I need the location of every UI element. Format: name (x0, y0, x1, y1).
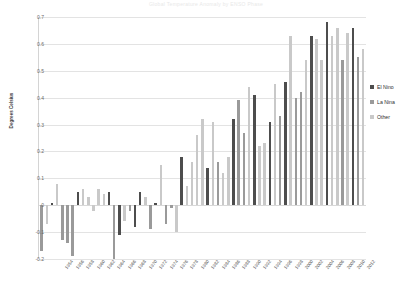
x-tick-label: 1958 (85, 259, 95, 270)
bar (77, 192, 79, 205)
bar (300, 92, 302, 205)
bar (103, 194, 105, 205)
bar (51, 203, 53, 206)
legend-swatch-icon (370, 85, 374, 89)
bar (113, 205, 115, 259)
y-tick-label: -0.1 (16, 229, 44, 235)
x-tick-label: 1974 (168, 259, 178, 270)
x-tick-label: 1982 (210, 259, 220, 270)
bar (341, 60, 343, 205)
x-tick-label: 1966 (127, 259, 137, 270)
bar (253, 95, 255, 205)
x-tick-label: 2002 (314, 259, 324, 270)
bar (180, 157, 182, 205)
bar (154, 203, 156, 206)
bar (357, 57, 359, 205)
x-tick-label: 2000 (304, 259, 314, 270)
bar (40, 205, 42, 251)
x-tick-label: 2006 (335, 259, 345, 270)
x-tick-label: 1956 (75, 259, 85, 270)
bar (170, 205, 172, 208)
x-tick-label: 2004 (325, 259, 335, 270)
bar (263, 143, 265, 205)
legend-item[interactable]: Other (370, 113, 412, 120)
y-tick-label: 0 (16, 202, 44, 208)
bar (201, 119, 203, 205)
bar (66, 205, 68, 243)
bar (186, 186, 188, 205)
x-tick-label: 1990 (252, 259, 262, 270)
bar (46, 205, 48, 224)
bar (279, 116, 281, 205)
x-tick-label: 1994 (273, 259, 283, 270)
x-tick-label: 1970 (148, 259, 158, 270)
bar (165, 205, 167, 224)
bar (336, 28, 338, 205)
bar (206, 168, 208, 206)
x-tick-label: 1976 (179, 259, 189, 270)
chart-legend: El NinoLa NinaOther (370, 83, 412, 128)
x-tick-label: 1972 (158, 259, 168, 270)
bar (97, 189, 99, 205)
bar (92, 205, 94, 210)
bar (175, 205, 177, 232)
bar (362, 49, 364, 205)
bar (123, 205, 125, 221)
bar (289, 36, 291, 205)
x-tick-label: 1964 (116, 259, 126, 270)
bar (191, 162, 193, 205)
x-tick-label: 1980 (200, 259, 210, 270)
y-axis-title: Degrees Celsius (9, 76, 14, 146)
x-tick-label: 1984 (221, 259, 231, 270)
legend-swatch-icon (370, 100, 374, 104)
bar (315, 39, 317, 206)
bar (149, 205, 151, 229)
bar (237, 100, 239, 205)
y-tick-label: 0.7 (16, 14, 44, 20)
x-tick-label: 1992 (262, 259, 272, 270)
x-tick-label: 1968 (137, 259, 147, 270)
x-tick-label: 1954 (64, 259, 74, 270)
bar (227, 157, 229, 205)
y-tick-label: 0.2 (16, 148, 44, 154)
x-axis-ticks: 1954195619581960196219641966196819701972… (38, 259, 366, 283)
bar (269, 122, 271, 205)
bar (352, 28, 354, 205)
chart-container: Global Temperature Anomaly by ENSO Phase… (0, 0, 412, 283)
chart-title: Global Temperature Anomaly by ENSO Phase (0, 1, 412, 7)
x-tick-label: 1962 (106, 259, 116, 270)
bar (248, 87, 250, 205)
bar (196, 135, 198, 205)
y-tick-label: 0.3 (16, 122, 44, 128)
legend-item[interactable]: El Nino (370, 83, 412, 90)
bar (82, 189, 84, 205)
bar (118, 205, 120, 235)
x-tick-label: 1986 (231, 259, 241, 270)
bar (160, 165, 162, 205)
bar (144, 197, 146, 205)
bar (222, 173, 224, 205)
x-tick-label: 1960 (96, 259, 106, 270)
bar (346, 33, 348, 205)
bar (212, 122, 214, 205)
bar (129, 205, 131, 210)
legend-label: La Nina (377, 99, 395, 105)
bar (61, 205, 63, 240)
bar (320, 60, 322, 205)
x-tick-label: 1988 (241, 259, 251, 270)
bar-series (39, 17, 366, 259)
bar (305, 60, 307, 205)
bar (232, 119, 234, 205)
legend-label: El Nino (377, 84, 394, 90)
x-tick-label: 1978 (189, 259, 199, 270)
bar (134, 205, 136, 227)
x-tick-label: 1998 (293, 259, 303, 270)
bar (108, 192, 110, 205)
x-tick-label: 2012 (366, 259, 376, 270)
bar (243, 133, 245, 206)
y-tick-label: 0.6 (16, 41, 44, 47)
legend-item[interactable]: La Nina (370, 98, 412, 105)
y-tick-label: 0.1 (16, 175, 44, 181)
bar (284, 82, 286, 206)
bar (326, 22, 328, 205)
